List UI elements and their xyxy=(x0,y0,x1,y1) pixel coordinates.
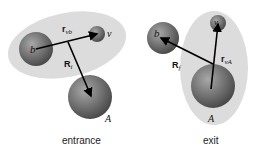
exit-sphere-b xyxy=(147,22,179,54)
entrance-label-v: v xyxy=(107,28,112,39)
exit-label-v: v xyxy=(214,17,218,27)
exit-label-b: b xyxy=(154,27,160,39)
exit-label-R-f: Rf xyxy=(172,60,182,72)
entrance-label-A: A xyxy=(104,113,112,124)
exit-panel: b v A rvA Rf exit xyxy=(147,11,248,146)
exit-label-A: A xyxy=(207,113,215,124)
exit-caption: exit xyxy=(203,135,219,146)
entrance-panel: b v A rvb Ri entrance xyxy=(2,1,133,146)
entrance-caption: entrance xyxy=(62,135,101,146)
diagram-canvas: b v A rvb Ri entrance b v A rvA Rf exit xyxy=(0,0,261,153)
entrance-label-b: b xyxy=(30,43,36,55)
